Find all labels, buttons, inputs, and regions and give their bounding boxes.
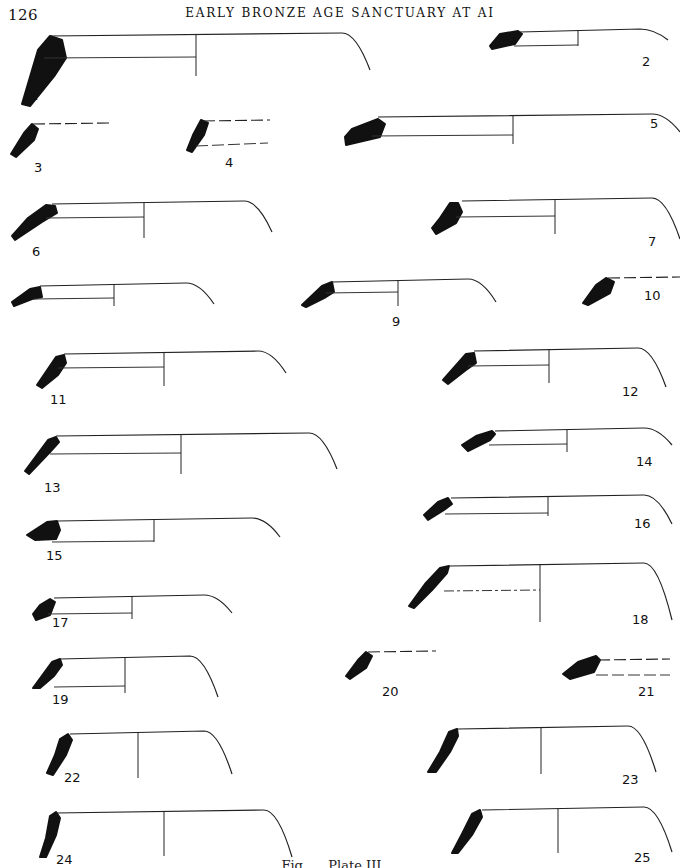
outer-profile-line (54, 595, 232, 613)
vessel-profile-25: 25 (452, 807, 672, 865)
figure-number: 7 (648, 234, 656, 249)
section-fill (12, 287, 42, 306)
section-fill (583, 278, 614, 305)
inner-profile-line (52, 541, 154, 542)
vessel-profile-11: 11 (37, 351, 286, 407)
section-fill (47, 734, 72, 775)
inner-profile-line (468, 365, 549, 366)
section-fill (25, 437, 59, 474)
vessel-profile-22: 22 (47, 731, 232, 785)
outer-profile-line (58, 518, 280, 537)
inner-profile-line (489, 444, 567, 445)
section-fill (37, 355, 66, 388)
rim-line-dashed (203, 120, 270, 121)
figure-number: 6 (32, 244, 40, 259)
vessel-profile-17: 17 (33, 595, 232, 630)
rim-line-dashed (33, 123, 110, 124)
inner-profile-line (444, 590, 540, 591)
rim-line-dashed (608, 277, 680, 278)
section-fill (462, 431, 495, 451)
figure-number: 4 (225, 155, 233, 170)
rim-line-dashed (368, 651, 436, 652)
vessel-profile-12: 12 (443, 348, 666, 399)
section-fill (12, 205, 57, 240)
figure-number: 10 (644, 288, 661, 303)
outer-profile-line (50, 33, 370, 70)
vessel-profile-18: 18 (409, 563, 672, 627)
vessel-profile-2: 2 (490, 29, 668, 69)
section-fill (22, 36, 66, 106)
figure-number: 21 (638, 684, 655, 699)
outer-profile-line (482, 807, 672, 852)
section-fill (443, 353, 476, 384)
vessel-profile-23: 23 (428, 726, 656, 787)
inner-profile-line (58, 367, 164, 368)
section-fill (27, 521, 60, 540)
outer-profile-line (60, 656, 218, 697)
figure-number: 20 (382, 684, 399, 699)
outer-profile-line (52, 201, 272, 232)
section-fill (424, 498, 452, 520)
vessel-profile-21: 21 (563, 656, 670, 699)
vessel-profile-14: 14 (462, 428, 672, 469)
outer-profile-line (56, 433, 337, 469)
section-fill (302, 282, 334, 307)
section-fill (40, 812, 60, 857)
vessel-profile-4: 4 (187, 120, 270, 170)
section-fill (409, 566, 449, 608)
outer-profile-line (495, 428, 672, 445)
outer-profile-line (56, 810, 292, 857)
figure-number: 22 (64, 770, 81, 785)
section-fill (11, 124, 38, 157)
outer-profile-line (462, 198, 680, 239)
inner-profile-line (456, 216, 555, 217)
figure-number: 9 (392, 314, 400, 329)
figure-number: 19 (52, 692, 69, 707)
section-fill (33, 659, 62, 688)
inner-profile-line (445, 513, 548, 514)
inner-profile-line (46, 217, 144, 218)
figure-number: 13 (44, 480, 61, 495)
outer-profile-line (378, 114, 680, 132)
figure-number: 23 (622, 772, 639, 787)
figure-number: 18 (632, 612, 649, 627)
figure-number: 16 (634, 516, 651, 531)
vessel-profile-20: 20 (346, 651, 436, 699)
figure-caption: Fig. … Plate III … (0, 858, 680, 868)
figure-number: 2 (642, 54, 650, 69)
outer-profile-line (40, 283, 214, 304)
vessel-profile-3: 3 (11, 123, 110, 175)
inner-profile-line (514, 45, 578, 46)
vessel-profile-7: 7 (432, 198, 680, 249)
inner-profile-line (326, 292, 398, 293)
section-fill (428, 729, 458, 772)
section-fill (452, 810, 482, 853)
outer-profile-line (70, 731, 232, 774)
vessel-profile-16: 16 (424, 495, 672, 531)
inner-line-dashed (196, 143, 268, 146)
vessel-profile-13: 13 (25, 433, 337, 495)
figure-number: 1 (30, 88, 38, 103)
section-fill (563, 656, 600, 679)
rim-line-dashed (598, 659, 670, 660)
section-fill (432, 203, 462, 234)
vessel-profile-8 (12, 283, 214, 306)
vessel-profile-10: 10 (583, 277, 680, 305)
inner-profile-line (48, 613, 132, 614)
inner-profile-line (372, 135, 513, 136)
section-fill (345, 119, 385, 145)
outer-profile-line (332, 279, 496, 302)
vessel-profile-1: 1 (22, 33, 370, 106)
outer-profile-line (520, 29, 668, 40)
inner-profile-line (34, 298, 114, 299)
vessel-profile-19: 19 (33, 656, 218, 707)
outer-profile-line (64, 351, 286, 373)
outer-profile-line (458, 726, 656, 772)
vessel-profile-15: 15 (27, 518, 280, 563)
inner-profile-line (54, 686, 125, 687)
inner-profile-line (50, 453, 181, 454)
figure-number: 11 (50, 392, 67, 407)
figure-number: 3 (34, 160, 42, 175)
figure-number: 12 (622, 384, 639, 399)
